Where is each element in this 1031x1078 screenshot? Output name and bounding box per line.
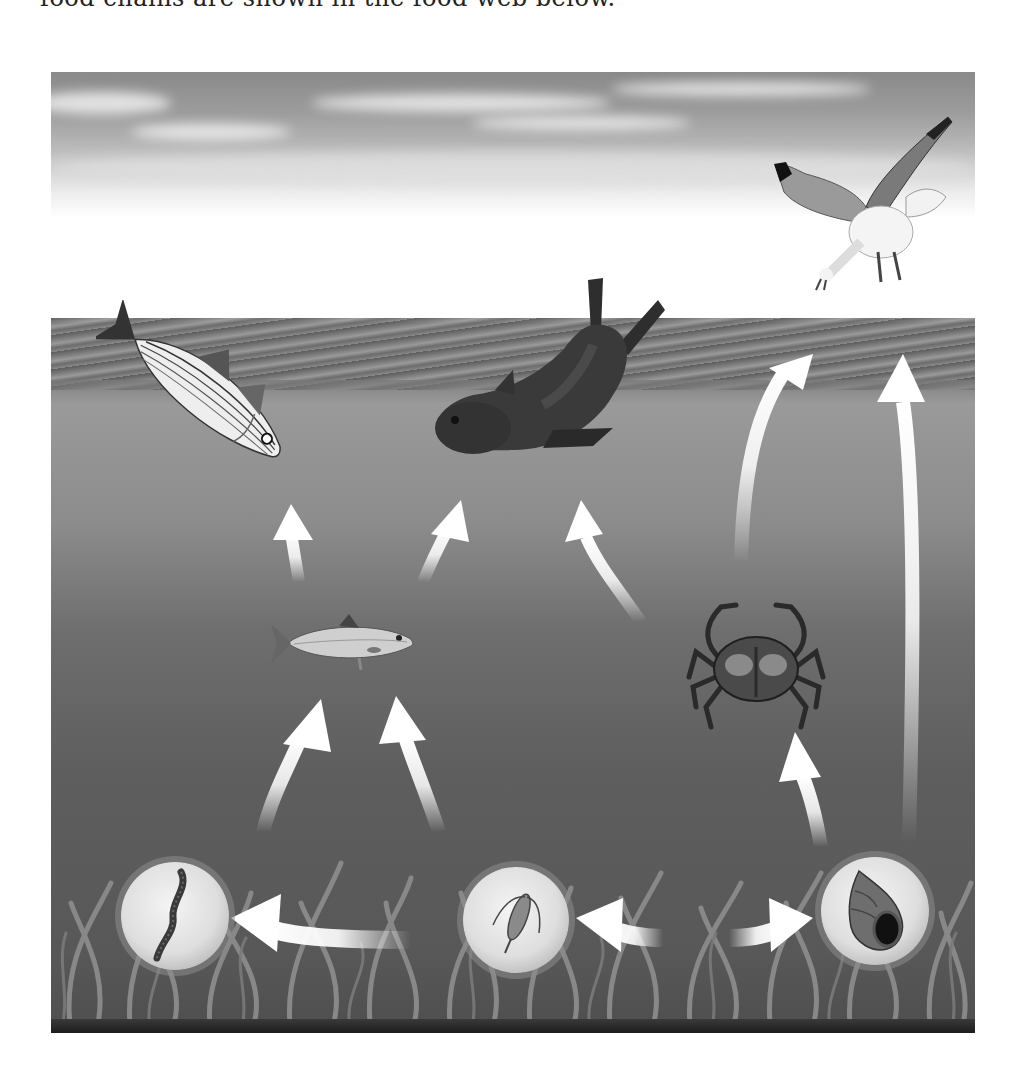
- crab-illustration: [681, 597, 831, 737]
- worm-circle: [121, 862, 229, 970]
- arrow-herring-to-bass: [273, 504, 313, 582]
- arrow-snail-to-crab: [779, 732, 821, 847]
- arrow-crab-to-seal: [565, 500, 641, 622]
- snail-circle: [821, 857, 929, 965]
- arrow-worm-to-herring: [263, 699, 331, 832]
- copepod-illustration: [463, 867, 569, 973]
- arrow-seagrass-to-copepod: [576, 898, 663, 952]
- herring-illustration: [269, 612, 419, 674]
- arrow-copepod-to-worm: [231, 894, 411, 952]
- seagull-illustration: [766, 112, 956, 292]
- worm-illustration: [121, 862, 229, 970]
- striped-bass-illustration: [96, 300, 321, 490]
- arrow-seagrass-to-snail: [729, 898, 813, 952]
- copepod-circle: [463, 867, 569, 973]
- snail-illustration: [821, 857, 929, 965]
- cut-off-question-text: food chains are shown in the food web be…: [40, 0, 616, 12]
- seal-illustration: [433, 270, 673, 475]
- arrow-snail-to-gull: [877, 354, 925, 842]
- food-web-scene: Marine food web: [51, 72, 975, 1033]
- arrow-crab-to-gull: [741, 354, 813, 562]
- arrow-copepod-to-herring: [379, 696, 439, 832]
- arrow-herring-to-seal: [423, 500, 469, 582]
